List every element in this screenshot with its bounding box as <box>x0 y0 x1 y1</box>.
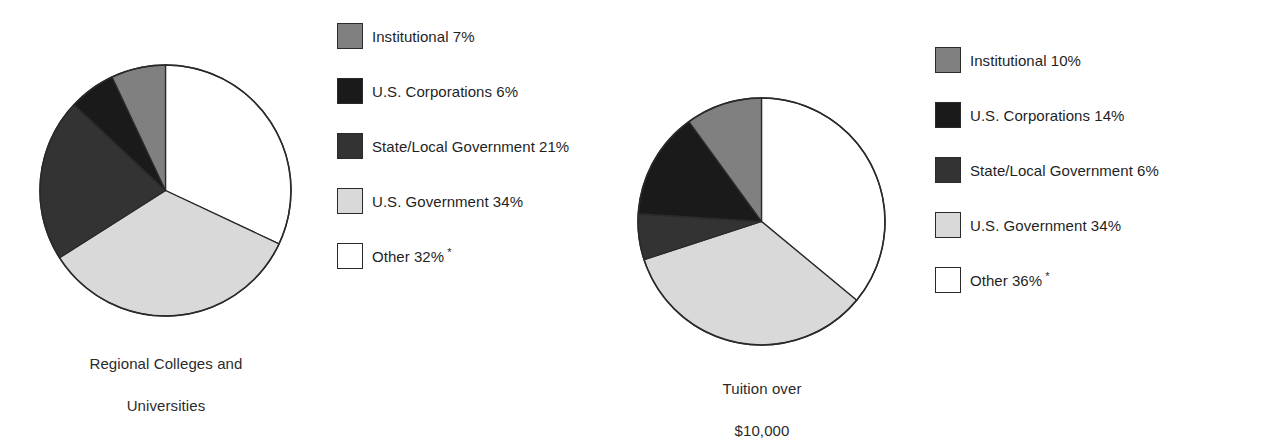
legend-label-other: Other 32%* <box>372 247 452 265</box>
legend-swatch-state-local-government <box>935 157 961 183</box>
caption-line-1: Regional Colleges and <box>35 353 297 374</box>
footnote-asterisk-icon: * <box>1045 270 1049 282</box>
legend-item-us-government[interactable]: U.S. Government 34% <box>935 211 1121 239</box>
legend-label-state-local-government: State/Local Government 21% <box>372 138 569 155</box>
legend-item-other[interactable]: Other 32%* <box>337 242 452 270</box>
pie-chart-svg <box>39 64 292 317</box>
legend-item-institutional[interactable]: Institutional 10% <box>935 46 1081 74</box>
footnote-asterisk-icon: * <box>447 246 451 258</box>
legend-label-state-local-government: State/Local Government 6% <box>970 162 1159 179</box>
legend-swatch-institutional <box>337 23 363 49</box>
caption-line-1: Tuition over <box>635 378 889 399</box>
legend-item-us-government[interactable]: U.S. Government 34% <box>337 187 523 215</box>
legend-item-us-corporations[interactable]: U.S. Corporations 6% <box>337 77 518 105</box>
legend-label-us-government: U.S. Government 34% <box>372 193 523 210</box>
legend-swatch-other <box>337 243 363 269</box>
legend-swatch-state-local-government <box>337 133 363 159</box>
legend-item-us-corporations[interactable]: U.S. Corporations 14% <box>935 101 1124 129</box>
chart-caption-tuition-over-10000: Tuition over $10,000 <box>635 357 889 442</box>
legend-label-us-corporations: U.S. Corporations 6% <box>372 83 518 100</box>
chart-panel-regional-colleges: Regional Colleges and Universities Insti… <box>0 0 620 423</box>
legend-swatch-us-corporations <box>935 102 961 128</box>
legend-label-other-text: Other 36% <box>970 272 1042 289</box>
legend-swatch-other <box>935 267 961 293</box>
legend-regional-colleges: Institutional 7% U.S. Corporations 6% St… <box>337 22 620 282</box>
legend-label-us-government: U.S. Government 34% <box>970 217 1121 234</box>
legend-swatch-us-government <box>935 212 961 238</box>
legend-label-other: Other 36%* <box>970 271 1050 289</box>
legend-label-institutional: Institutional 10% <box>970 52 1081 69</box>
pie-chart-regional-colleges <box>39 64 292 317</box>
chart-caption-regional-colleges: Regional Colleges and Universities <box>35 332 297 437</box>
legend-item-other[interactable]: Other 36%* <box>935 266 1050 294</box>
chart-panel-tuition-over-10000: Tuition over $10,000 Institutional 10% U… <box>620 0 1272 423</box>
legend-label-other-text: Other 32% <box>372 248 444 265</box>
legend-swatch-us-corporations <box>337 78 363 104</box>
legend-tuition-over-10000: Institutional 10% U.S. Corporations 14% … <box>935 46 1265 306</box>
pie-chart-svg <box>637 97 886 346</box>
legend-swatch-institutional <box>935 47 961 73</box>
legend-label-institutional: Institutional 7% <box>372 28 475 45</box>
legend-item-institutional[interactable]: Institutional 7% <box>337 22 475 50</box>
caption-line-2: $10,000 <box>635 420 889 441</box>
legend-label-us-corporations: U.S. Corporations 14% <box>970 107 1124 124</box>
legend-item-state-local-government[interactable]: State/Local Government 21% <box>337 132 569 160</box>
caption-line-2: Universities <box>35 395 297 416</box>
legend-item-state-local-government[interactable]: State/Local Government 6% <box>935 156 1159 184</box>
pie-chart-tuition-over-10000 <box>637 97 886 346</box>
legend-swatch-us-government <box>337 188 363 214</box>
